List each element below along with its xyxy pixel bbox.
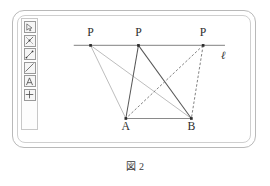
- point-layer: [89, 44, 204, 120]
- caption-prefix: 図: [126, 161, 139, 172]
- geometry-svg: ℓPPPAB: [42, 16, 250, 142]
- cursor-arrow-icon: [25, 23, 34, 32]
- point-label-P3: P: [200, 26, 207, 39]
- point-P3[interactable]: [202, 44, 205, 47]
- point-label-B: B: [187, 120, 195, 133]
- point-P2[interactable]: [137, 44, 140, 47]
- tool-button-segment[interactable]: [24, 48, 36, 60]
- point-marker-icon: [25, 36, 34, 45]
- segment-P1-A[interactable]: [91, 45, 126, 118]
- segment-P2-A[interactable]: [126, 45, 139, 118]
- whiteboard-device: ℓPPPAB: [12, 10, 256, 148]
- segment-P3-A[interactable]: [126, 45, 203, 118]
- line-icon: [25, 63, 34, 72]
- label-layer: ℓPPPAB: [87, 26, 226, 133]
- segment-P1-B[interactable]: [91, 45, 192, 118]
- point-label-A: A: [122, 120, 131, 133]
- text-a-icon: [25, 77, 34, 86]
- tool-button-select[interactable]: [24, 21, 36, 33]
- segment-P3-B[interactable]: [191, 45, 203, 118]
- line-ell-label: ℓ: [221, 49, 226, 61]
- tool-button-line[interactable]: [24, 62, 36, 74]
- tool-palette: [21, 18, 38, 130]
- move-crosshair-icon: [25, 90, 34, 99]
- point-label-P1: P: [87, 26, 94, 39]
- geometry-canvas[interactable]: ℓPPPAB: [42, 16, 250, 142]
- figure-caption: 図2: [0, 158, 270, 173]
- tool-button-move[interactable]: [24, 89, 36, 101]
- point-P1[interactable]: [89, 44, 92, 47]
- segment-layer: [91, 45, 204, 118]
- tool-button-text[interactable]: [24, 75, 36, 87]
- segment-icon: [25, 50, 34, 59]
- caption-number: 2: [139, 161, 144, 172]
- point-label-P2: P: [135, 26, 142, 39]
- tool-button-point[interactable]: [24, 35, 36, 47]
